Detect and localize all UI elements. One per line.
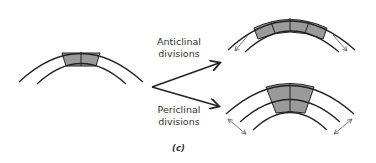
- periclinal-label-line2: divisions: [144, 116, 214, 128]
- anticlinal-label-line1: Anticlinal: [144, 36, 214, 48]
- periclinal-result: [226, 83, 354, 134]
- anticlinal-label: Anticlinal divisions: [144, 36, 214, 60]
- figure-caption: (c): [172, 143, 185, 153]
- initial-tissue: [19, 52, 143, 84]
- anticlinal-label-line2: divisions: [144, 48, 214, 60]
- division-arrows: [152, 63, 219, 106]
- anticlinal-result: [228, 18, 355, 52]
- periclinal-label: Periclinal divisions: [144, 104, 214, 128]
- division-diagram: [0, 0, 376, 163]
- periclinal-label-line1: Periclinal: [144, 104, 214, 116]
